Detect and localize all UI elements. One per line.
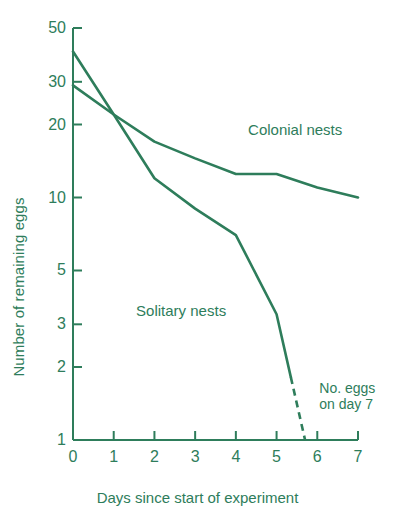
x-axis-title: Days since start of experiment (0, 489, 395, 506)
chart-axes (73, 28, 358, 440)
annotation-line: on day 7 (319, 396, 375, 412)
y-tick-label: 5 (28, 261, 66, 279)
series-line-0 (73, 85, 358, 197)
y-tick-label: 1 (28, 431, 66, 449)
y-tick-label: 30 (28, 73, 66, 91)
x-tick-label: 5 (272, 448, 281, 466)
series-line-1 (73, 52, 291, 378)
y-tick-label: 10 (28, 189, 66, 207)
x-tick-label: 3 (191, 448, 200, 466)
y-tick-label: 20 (28, 116, 66, 134)
x-tick-label: 6 (313, 448, 322, 466)
x-tick-label: 2 (150, 448, 159, 466)
annotation-no-eggs-day-7: No. eggson day 7 (319, 380, 375, 412)
x-tick-label: 7 (354, 448, 363, 466)
annotation-line: No. eggs (319, 380, 375, 396)
x-tick-label: 1 (109, 448, 118, 466)
series-label-solitary-nests: Solitary nests (136, 302, 226, 319)
x-tick-label: 4 (231, 448, 240, 466)
x-tick-label: 0 (69, 448, 78, 466)
chart-figure: 123510203050 01234567 Colonial nestsSoli… (0, 0, 395, 526)
y-tick-label: 2 (28, 358, 66, 376)
series-line-dashed-1 (291, 377, 305, 440)
y-tick-label: 3 (28, 315, 66, 333)
y-tick-label: 50 (28, 19, 66, 37)
chart-series (73, 52, 358, 440)
x-axis-title-text: Days since start of experiment (97, 489, 299, 506)
series-label-colonial-nests: Colonial nests (248, 121, 342, 138)
